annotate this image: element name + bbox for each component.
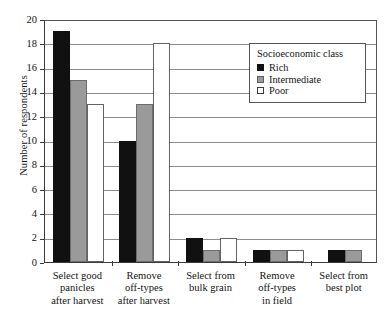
legend-item: Intermediate — [257, 74, 359, 86]
legend-swatch-inter — [257, 76, 264, 83]
bar-inter — [270, 250, 287, 262]
bar-inter — [203, 250, 220, 262]
category-label: Select frombest plot — [304, 270, 383, 295]
bar-inter — [345, 250, 362, 262]
legend-items: RichIntermediatePoor — [257, 62, 359, 97]
legend-swatch-rich — [257, 64, 264, 71]
legend-item: Poor — [257, 85, 359, 97]
y-tick-label: 16 — [0, 63, 37, 74]
bar-group — [53, 19, 104, 262]
bar-inter — [70, 80, 87, 262]
category-tick — [112, 261, 113, 266]
bar-group — [119, 19, 170, 262]
bar-poor — [153, 43, 170, 262]
y-tick-label: 12 — [0, 112, 37, 123]
y-tick-label: 18 — [0, 39, 37, 50]
category-label-line: best plot — [304, 282, 383, 294]
category-tick — [178, 261, 179, 266]
y-tick-label: 6 — [0, 185, 37, 196]
bar-rich — [253, 250, 270, 262]
legend-swatch-poor — [257, 87, 264, 94]
chart-legend: Socioeconomic class RichIntermediatePoor — [249, 43, 366, 103]
legend-item-label: Poor — [269, 85, 288, 97]
y-tick-label: 8 — [0, 160, 37, 171]
y-tick-label: 10 — [0, 136, 37, 147]
bar-inter — [136, 104, 153, 262]
y-tick-label: 2 — [0, 233, 37, 244]
bar-poor — [220, 238, 237, 262]
category-label-line: after harvest — [105, 295, 184, 307]
bar-poor — [287, 250, 304, 262]
legend-title: Socioeconomic class — [257, 48, 359, 60]
y-tick-mark — [40, 263, 44, 264]
category-tick — [311, 261, 312, 266]
y-tick-label: 14 — [0, 87, 37, 98]
category-label-line: in field — [238, 295, 317, 307]
chart-figure: Number of respondents 02468101214161820 … — [0, 0, 389, 312]
bar-rich — [328, 250, 345, 262]
bar-poor — [87, 104, 104, 262]
legend-item-label: Rich — [269, 62, 288, 74]
bar-group — [186, 19, 237, 262]
category-tick — [245, 261, 246, 266]
bar-rich — [53, 31, 70, 262]
bar-rich — [186, 238, 203, 262]
legend-item: Rich — [257, 62, 359, 74]
bar-rich — [119, 141, 136, 263]
y-tick-label: 20 — [0, 15, 37, 26]
category-label-line: Select from — [304, 270, 383, 282]
legend-item-label: Intermediate — [269, 74, 321, 86]
y-tick-label: 0 — [0, 258, 37, 269]
y-tick-label: 4 — [0, 209, 37, 220]
